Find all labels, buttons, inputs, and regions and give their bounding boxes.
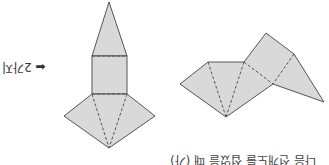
left-net-bottom-faces <box>64 94 155 148</box>
right-net <box>180 33 324 117</box>
caption-text: 다음 전개도를 접었을 때 (가) <box>170 153 316 165</box>
left-net <box>64 2 155 148</box>
left-net-square-face <box>92 56 127 94</box>
count-arrow-label: ⬅ 2가지 <box>2 60 46 77</box>
right-net-outline <box>180 33 324 117</box>
left-net-top-triangle <box>92 2 127 56</box>
figure-canvas <box>0 0 329 165</box>
